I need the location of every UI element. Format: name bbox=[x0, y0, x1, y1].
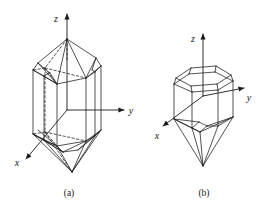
panel-label-b: (b) bbox=[198, 188, 209, 199]
crystal-b-solid-edges bbox=[174, 66, 233, 166]
axis-label-y-b: y bbox=[246, 92, 252, 103]
axis-label-y-a: y bbox=[128, 105, 134, 116]
crystal-a-group bbox=[26, 14, 124, 172]
axis-y-line-b bbox=[203, 88, 244, 96]
crystal-axes-figure: z y x z y x (a) (b) bbox=[0, 0, 267, 210]
axis-label-z-a: z bbox=[53, 13, 58, 24]
axis-label-x-b: x bbox=[154, 130, 160, 141]
crystal-a-axes bbox=[26, 14, 124, 159]
crystal-b-group bbox=[163, 34, 244, 166]
axis-label-x-a: x bbox=[14, 157, 20, 168]
crystal-a-hidden-edges bbox=[33, 39, 86, 172]
axis-label-z-b: z bbox=[190, 33, 195, 44]
figure-canvas: z y x z y x (a) (b) bbox=[0, 0, 267, 210]
axis-x-line-a bbox=[26, 110, 67, 159]
panel-label-a: (a) bbox=[64, 188, 75, 199]
